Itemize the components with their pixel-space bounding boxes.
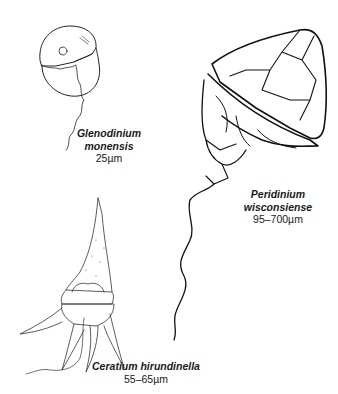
species-name-genus: Glenodinium	[64, 127, 154, 140]
species-name-genus: Peridinium	[228, 188, 328, 201]
size-value: 95–700µm	[228, 213, 328, 226]
species-name: Ceratium hirundinella	[84, 360, 208, 373]
label-ceratium: Ceratium hirundinella 55–65µm	[84, 360, 208, 385]
label-glenodinium: Glenodinium monensis 25µm	[64, 127, 154, 165]
size-value: 55–65µm	[84, 373, 208, 386]
label-peridinium: Peridinium wisconsiense 95–700µm	[228, 188, 328, 226]
species-name-epithet: monensis	[64, 140, 154, 153]
size-value: 25µm	[64, 152, 154, 165]
species-name-epithet: wisconsiense	[228, 201, 328, 214]
ceratium-drawing	[20, 198, 124, 374]
peridinium-drawing	[174, 30, 326, 340]
